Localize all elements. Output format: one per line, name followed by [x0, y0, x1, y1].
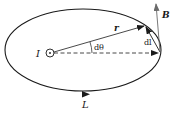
radius-label: r [114, 23, 120, 33]
loop-direction-arrow-icon [82, 91, 90, 97]
field-vector-arrow [156, 4, 160, 52]
angle-label: dθ [94, 43, 104, 52]
ampere-loop-diagram: I r dθ dl B L [0, 0, 174, 115]
line-element-label: dl [144, 38, 152, 47]
current-label: I [35, 48, 41, 59]
angle-arc [90, 42, 92, 53]
field-label: B [161, 10, 170, 20]
current-dot-icon [49, 52, 51, 54]
loop-label: L [81, 99, 89, 110]
loop-curve [5, 9, 161, 91]
